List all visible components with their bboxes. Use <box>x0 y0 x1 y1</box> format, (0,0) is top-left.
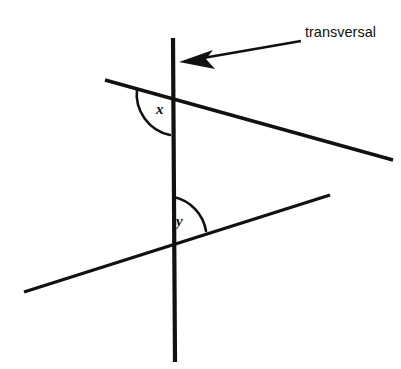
transversal-line <box>173 38 175 362</box>
transversal-callout-label: transversal <box>305 24 376 40</box>
angle-y-label: y <box>174 213 183 229</box>
angle-x-label: x <box>155 101 164 117</box>
diagram-canvas: x y transversal <box>0 0 401 369</box>
diagram-figure: x y transversal <box>0 0 401 369</box>
